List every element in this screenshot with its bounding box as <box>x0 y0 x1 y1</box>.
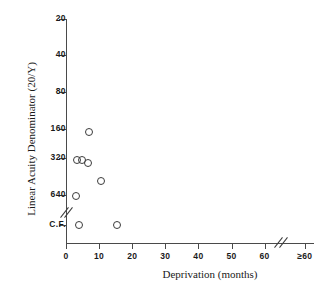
x-tick-mark <box>198 243 199 249</box>
x-tick-mark <box>132 243 133 249</box>
data-point <box>84 159 92 167</box>
y-tick-label: 80 <box>14 87 66 96</box>
x-tick-mark <box>66 243 67 249</box>
x-tick-mark <box>265 243 266 249</box>
data-point <box>72 192 80 200</box>
y-tick-label: 40 <box>14 50 66 59</box>
y-tick-label: 640 <box>14 190 66 199</box>
y-axis-title: Linear Acuity Denominator (20/Y) <box>25 29 37 249</box>
data-point <box>85 128 93 136</box>
y-tick-label: 320 <box>14 153 66 162</box>
scatter-chart: 204080160320640C.F. 0102030405060≥60 Lin… <box>0 0 320 297</box>
x-tick-label: ≥60 <box>285 252 320 261</box>
y-tick-20: 20 <box>0 19 66 20</box>
x-axis-title: Deprivation (months) <box>120 268 300 280</box>
x-tick-mark <box>232 243 233 249</box>
x-axis-break-icon <box>274 236 290 250</box>
x-tick-mark <box>165 243 166 249</box>
y-tick-label: C.F. <box>14 220 66 229</box>
x-tick-label: 60 <box>245 252 285 261</box>
y-axis-break-icon <box>60 205 73 221</box>
y-tick-label: 160 <box>14 124 66 133</box>
x-tick-mark <box>305 243 306 249</box>
x-tick-mark <box>99 243 100 249</box>
data-point <box>97 177 105 185</box>
data-point <box>75 221 83 229</box>
y-tick-label: 20 <box>14 14 66 23</box>
data-point <box>113 221 121 229</box>
